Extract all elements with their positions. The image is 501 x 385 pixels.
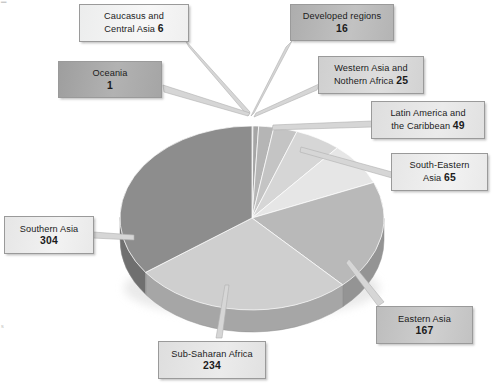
callout-latin-america-caribbean[interactable]: Latin America and the Caribbean 49 xyxy=(371,101,485,139)
callout-oceania[interactable]: Oceania 1 xyxy=(58,61,162,98)
leader-line-developed xyxy=(251,41,292,116)
callout-south-eastern-line1: South-Eastern xyxy=(409,160,469,171)
callout-developed-value: 16 xyxy=(336,23,348,34)
callout-sub-saharan-africa[interactable]: Sub-Saharan Africa 234 xyxy=(158,341,266,379)
callout-western-asia-line2: Nothern Africa 25 xyxy=(334,75,408,87)
callout-oceania-value: 1 xyxy=(107,80,113,91)
callout-southern-asia[interactable]: Southern Asia 304 xyxy=(4,216,94,254)
leader-line-eastern-asia xyxy=(346,259,384,306)
callout-south-eastern-value: 65 xyxy=(444,172,456,183)
callout-southern-asia-value: 304 xyxy=(40,235,58,246)
leader-line-latin-america xyxy=(272,121,372,130)
callout-eastern-asia-line1: Eastern Asia xyxy=(398,314,451,325)
callout-sub-saharan-value: 234 xyxy=(203,360,221,371)
callout-developed-line1: Developed regions xyxy=(303,11,381,22)
leader-line-sub-saharan xyxy=(216,285,229,338)
callout-south-eastern-line2: Asia 65 xyxy=(423,172,456,184)
leader-line-southern-asia xyxy=(93,232,134,240)
callout-eastern-asia-value: 167 xyxy=(416,325,434,336)
callout-south-eastern-asia[interactable]: South-Eastern Asia 65 xyxy=(391,153,488,191)
callout-western-asia-line1: Western Asia and xyxy=(334,63,407,74)
callout-southern-asia-line1: Southern Asia xyxy=(20,224,79,235)
leader-line-western-asia xyxy=(254,84,319,117)
callout-caucasus-line1: Caucasus and xyxy=(104,11,164,22)
callout-latin-america-value: 49 xyxy=(453,120,465,131)
callout-western-asia-value: 25 xyxy=(396,75,408,86)
callout-developed-regions[interactable]: Developed regions 16 xyxy=(290,4,394,41)
callout-sub-saharan-line1: Sub-Saharan Africa xyxy=(171,349,252,360)
chart-canvas: Caucasus and Central Asia 6 Oceania 1 De… xyxy=(0,0,501,385)
callout-western-asia-northern-africa[interactable]: Western Asia and Nothern Africa 25 xyxy=(318,56,424,94)
callout-caucasus-line2: Central Asia 6 xyxy=(104,23,163,35)
callout-oceania-line1: Oceania xyxy=(93,68,128,79)
callout-caucasus-and-central-asia[interactable]: Caucasus and Central Asia 6 xyxy=(79,4,189,42)
leader-line-south-eastern xyxy=(300,147,392,178)
callout-latin-america-line1: Latin America and xyxy=(390,108,465,119)
callout-latin-america-line2: the Caribbean 49 xyxy=(391,120,465,132)
callout-caucasus-value: 6 xyxy=(158,23,164,34)
callout-eastern-asia[interactable]: Eastern Asia 167 xyxy=(376,306,473,344)
